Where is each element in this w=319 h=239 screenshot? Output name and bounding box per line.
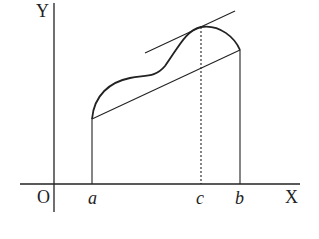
point-b-label: b xyxy=(235,188,244,208)
y-axis-label: Y xyxy=(36,1,49,21)
x-axis-label: X xyxy=(285,187,298,207)
mvt-diagram: Y X O a c b xyxy=(0,0,319,239)
origin-label: O xyxy=(37,187,50,207)
point-a-label: a xyxy=(88,188,97,208)
tangent-line xyxy=(145,11,235,53)
point-c-label: c xyxy=(196,188,204,208)
function-curve xyxy=(92,27,240,119)
